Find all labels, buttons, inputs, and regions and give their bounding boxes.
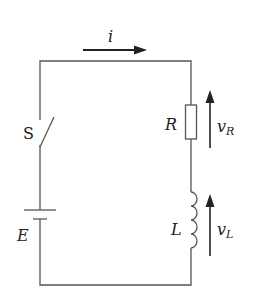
inductor-label: L (170, 220, 182, 239)
top-wire (40, 61, 191, 120)
battery-symbol (24, 210, 56, 219)
inductor-voltage-label: vL (217, 220, 233, 241)
resistor-voltage-arrow-icon (206, 90, 215, 148)
inductor-symbol (191, 192, 197, 248)
resistor-label: R (164, 115, 177, 134)
switch-blade (40, 117, 54, 147)
bottom-wire (40, 219, 191, 285)
switch-label: S (23, 124, 34, 143)
inductor-voltage-arrow-icon (206, 194, 215, 256)
current-label: i (108, 27, 113, 46)
rl-circuit-diagram: i S E R L vR vL (0, 0, 255, 293)
current-arrow-icon (83, 46, 147, 55)
source-label: E (16, 226, 29, 245)
resistor-voltage-label: vR (217, 117, 234, 138)
resistor-symbol (186, 105, 197, 139)
